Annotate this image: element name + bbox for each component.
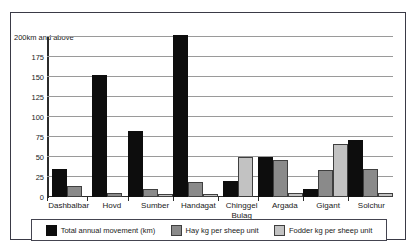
- bar: [273, 160, 288, 197]
- chart-figure: 0255075100125150175200km and above Dashb…: [10, 12, 406, 240]
- bar: [238, 157, 253, 197]
- bar: [92, 75, 107, 197]
- bar-group: [218, 37, 258, 197]
- y-tick-label: 175: [31, 53, 44, 62]
- bar: [348, 140, 363, 197]
- legend-label: Hay kg per sheep unit: [186, 226, 259, 235]
- bar: [173, 35, 188, 197]
- bar: [52, 169, 67, 197]
- y-axis-labels: 0255075100125150175200km and above: [11, 37, 44, 197]
- bar-group: [128, 37, 173, 197]
- bar: [318, 170, 333, 197]
- bar: [223, 181, 238, 197]
- legend-item[interactable]: Fodder kg per sheep unit: [274, 225, 372, 236]
- bar: [203, 194, 218, 197]
- bar: [67, 186, 82, 197]
- legend-swatch-icon: [171, 225, 182, 236]
- bar-groups: [47, 37, 393, 197]
- chart-legend: Total annual movement (km)Hay kg per she…: [31, 219, 387, 241]
- bar: [363, 169, 378, 197]
- bar: [333, 144, 348, 197]
- bar-group: [87, 37, 127, 197]
- bar: [188, 182, 203, 197]
- legend-item[interactable]: Total annual movement (km): [46, 225, 156, 236]
- y-tick-label: 150: [31, 73, 44, 82]
- bar: [128, 131, 143, 197]
- bar: [378, 193, 393, 197]
- bar-group: [348, 37, 393, 197]
- y-tick-label: 0: [40, 193, 44, 202]
- y-tick-label: 100: [31, 113, 44, 122]
- legend-swatch-icon: [46, 225, 57, 236]
- bar: [258, 157, 273, 197]
- bar: [303, 189, 318, 197]
- bar-group: [258, 37, 303, 197]
- bar-group: [47, 37, 87, 197]
- bar-group: [173, 37, 218, 197]
- bar: [288, 193, 303, 197]
- legend-label: Fodder kg per sheep unit: [289, 226, 372, 235]
- legend-swatch-icon: [274, 225, 285, 236]
- bar: [158, 194, 173, 197]
- y-tick-label: 75: [36, 133, 44, 142]
- y-tick-label: 25: [36, 173, 44, 182]
- y-tick-label: 125: [31, 93, 44, 102]
- legend-label: Total annual movement (km): [61, 226, 156, 235]
- bar-group: [303, 37, 348, 197]
- bar: [107, 193, 122, 197]
- plot-area: [47, 37, 393, 197]
- y-tick-label: 50: [36, 153, 44, 162]
- bar: [143, 189, 158, 197]
- legend-item[interactable]: Hay kg per sheep unit: [171, 225, 259, 236]
